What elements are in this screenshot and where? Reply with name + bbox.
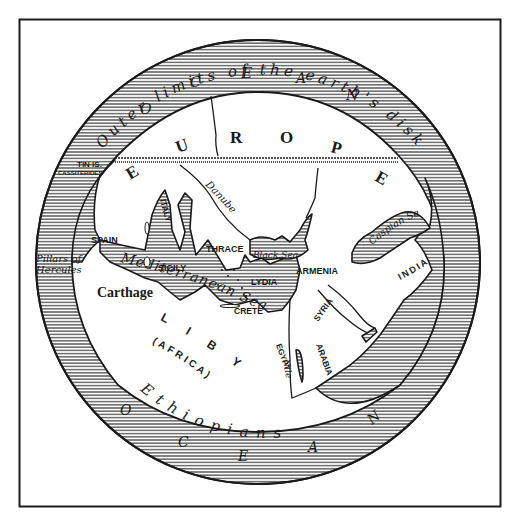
pillars-label-line2: Hercules — [35, 264, 82, 275]
crete-island — [220, 304, 240, 307]
sardinia-island — [145, 222, 149, 234]
ocean-bottom-a: A — [306, 439, 318, 455]
ocean-top-c: C — [190, 74, 201, 90]
ocean-top-o: O — [140, 101, 152, 117]
ocean-top-a: A — [294, 70, 306, 86]
sicily-island — [144, 257, 150, 267]
ocean-top-e: E — [241, 65, 252, 81]
europe-o: O — [280, 128, 293, 147]
thrace-label: THRACE — [206, 244, 244, 254]
ocean-top-n: N — [345, 87, 359, 103]
ocean-bottom-c: C — [178, 434, 189, 450]
armenia-label: ARMENIA — [296, 266, 338, 276]
herodotus-world-map: Outer limits of the earth's disk O C E A… — [0, 0, 518, 522]
pillars-label-line1: Pillars of — [35, 253, 83, 264]
tin-islands-label: TIN IS. — [77, 160, 102, 169]
ocean-bottom-o: O — [120, 402, 132, 418]
ocean-bottom-e: E — [237, 448, 248, 464]
black-sea-label: Black Sea — [252, 250, 298, 260]
lydia-label: LYDIA — [251, 277, 278, 287]
europe-r: R — [230, 128, 243, 147]
cassiterides-label: CASSITERIDES — [58, 170, 102, 176]
carthage-label: Carthage — [97, 285, 153, 300]
spain-label: SPAIN — [91, 235, 118, 245]
